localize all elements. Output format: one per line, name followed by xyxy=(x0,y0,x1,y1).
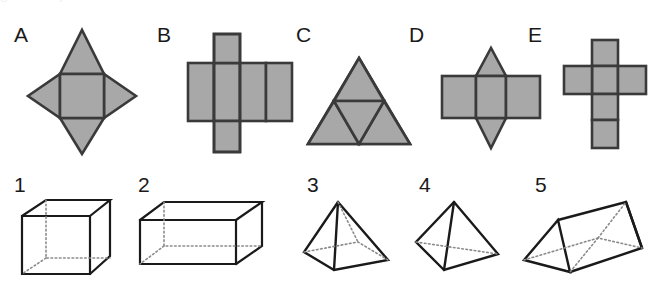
square-col-3 xyxy=(592,94,618,120)
square-row-2 xyxy=(214,63,240,121)
net-figure-cube-row xyxy=(186,32,294,154)
net-figure-tetrahedron xyxy=(306,56,412,146)
triangle-left xyxy=(28,74,60,118)
visible-silhouette xyxy=(416,202,498,270)
square-below xyxy=(214,121,240,152)
hidden-base-edge xyxy=(416,242,498,254)
front-face xyxy=(140,220,236,264)
top-back-edges xyxy=(22,200,110,216)
triangle-bottom xyxy=(60,118,104,154)
rect-middle xyxy=(476,76,506,118)
solid-figure-cuboid xyxy=(136,198,266,274)
front-triangle-face xyxy=(524,220,570,272)
center-square xyxy=(60,74,104,118)
triangle-below xyxy=(476,118,506,148)
hidden-back-edges xyxy=(524,238,642,260)
net-label-c: C xyxy=(296,24,311,45)
rect-right xyxy=(506,76,540,118)
edge-right-apex-down xyxy=(626,202,642,248)
net-label-b: B xyxy=(157,24,171,45)
square-right xyxy=(618,66,646,94)
solid-label-3: 3 xyxy=(307,174,319,195)
clipped-header-text: geometry nets and solids xyxy=(0,0,651,9)
solid-figure-triangular-prism xyxy=(520,198,646,278)
net-figure-square-pyramid xyxy=(26,28,138,156)
square-col-1 xyxy=(592,40,618,66)
right-back-edges xyxy=(90,200,110,274)
square-col-2 xyxy=(592,66,618,94)
square-above xyxy=(214,34,240,63)
triangle-right xyxy=(104,74,136,118)
square-col-4 xyxy=(592,120,618,148)
solid-figure-tetrahedron xyxy=(410,198,504,276)
hidden-edge-diagonal xyxy=(140,246,164,264)
edge-apex-to-front xyxy=(334,202,338,270)
net-label-d: D xyxy=(409,24,424,45)
visible-silhouette xyxy=(304,202,388,270)
net-label-e: E xyxy=(528,24,542,45)
solid-label-1: 1 xyxy=(14,174,26,195)
top-back-edges xyxy=(140,202,262,220)
triangle-top xyxy=(60,30,104,74)
square-row-4 xyxy=(266,63,292,121)
solid-figure-cube xyxy=(18,196,114,278)
solid-label-5: 5 xyxy=(535,174,547,195)
front-face xyxy=(22,216,90,274)
solid-label-2: 2 xyxy=(138,174,150,195)
solid-label-4: 4 xyxy=(419,174,431,195)
hidden-edge-diagonal xyxy=(22,258,46,274)
hidden-edges xyxy=(164,202,262,246)
square-left xyxy=(564,66,592,94)
triangle-above xyxy=(476,48,506,76)
square-row-1 xyxy=(188,63,214,121)
net-figure-cube-cross xyxy=(562,38,648,150)
solid-figure-square-pyramid xyxy=(300,198,396,276)
square-row-3 xyxy=(240,63,266,121)
inner-triangle-top xyxy=(334,58,384,101)
geometry-nets-and-solids-figure: geometry nets and solids A B xyxy=(0,0,651,284)
rect-left xyxy=(442,76,476,118)
net-figure-triangular-prism xyxy=(440,46,542,150)
